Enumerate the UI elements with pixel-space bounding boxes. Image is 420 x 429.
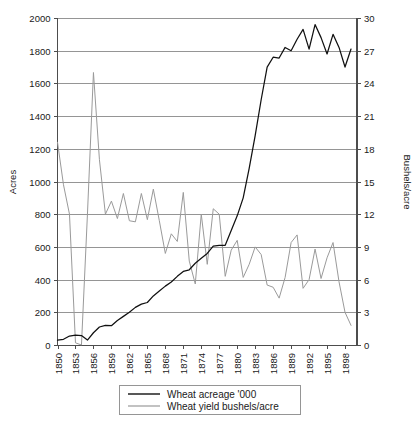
left-tick-label-1000: 1000 [29, 177, 50, 188]
x-tick-label-1877: 1877 [214, 353, 225, 374]
chart-legend: Wheat acreage '000 Wheat yield bushels/a… [120, 386, 301, 415]
wheat-acreage-yield-chart: 0200400600800100012001400160018002000 03… [0, 0, 420, 429]
right-tick-label-12: 12 [364, 209, 375, 220]
right-tick-label-0: 0 [364, 340, 369, 351]
left-tick-label-1800: 1800 [29, 46, 50, 57]
legend-label-wheat-acreage: Wheat acreage '000 [167, 389, 257, 400]
x-tick-label-1874: 1874 [196, 353, 207, 374]
left-tick-label-1600: 1600 [29, 78, 50, 89]
x-tick-label-1868: 1868 [160, 353, 171, 374]
x-tick-label-1856: 1856 [88, 353, 99, 374]
x-tick-label-1850: 1850 [53, 353, 64, 374]
series-line-wheat-yield [58, 73, 352, 346]
legend-label-wheat-yield: Wheat yield bushels/acre [167, 401, 279, 412]
right-tick-label-27: 27 [364, 46, 375, 57]
x-tick-label-1853: 1853 [70, 353, 81, 374]
left-tick-label-1200: 1200 [29, 144, 50, 155]
left-tick-label-600: 600 [35, 242, 51, 253]
left-tick-label-200: 200 [35, 307, 51, 318]
right-tick-label-6: 6 [364, 275, 369, 286]
right-tick-label-3: 3 [364, 307, 369, 318]
x-tick-label-1883: 1883 [250, 353, 261, 374]
left-tick-label-2000: 2000 [29, 13, 50, 24]
left-tick-label-800: 800 [35, 209, 51, 220]
right-tick-label-21: 21 [364, 111, 375, 122]
left-tick-label-0: 0 [45, 340, 50, 351]
left-axis-ticks-group: 0200400600800100012001400160018002000 [29, 13, 57, 351]
x-axis-ticks-group: 1850185318561859186218651868187118741877… [53, 345, 351, 374]
right-axis-title: Bushels/acre [402, 155, 413, 210]
x-tick-label-1892: 1892 [304, 353, 315, 374]
x-tick-label-1880: 1880 [232, 353, 243, 374]
x-tick-label-1859: 1859 [106, 353, 117, 374]
right-tick-label-15: 15 [364, 177, 375, 188]
left-tick-label-1400: 1400 [29, 111, 50, 122]
x-tick-label-1871: 1871 [178, 353, 189, 374]
x-tick-label-1898: 1898 [340, 353, 351, 374]
right-tick-label-30: 30 [364, 13, 375, 24]
left-axis-title: Acres [7, 170, 18, 195]
right-tick-label-24: 24 [364, 78, 375, 89]
left-tick-label-400: 400 [35, 275, 51, 286]
right-axis-ticks-group: 036912151821242730 [357, 13, 375, 351]
x-tick-label-1895: 1895 [322, 353, 333, 374]
gridlines-group [58, 19, 358, 313]
x-tick-label-1865: 1865 [142, 353, 153, 374]
right-tick-label-9: 9 [364, 242, 369, 253]
x-tick-label-1889: 1889 [286, 353, 297, 374]
right-tick-label-18: 18 [364, 144, 375, 155]
x-tick-label-1886: 1886 [268, 353, 279, 374]
chart-canvas: 0200400600800100012001400160018002000 03… [0, 0, 420, 429]
x-tick-label-1862: 1862 [124, 353, 135, 374]
